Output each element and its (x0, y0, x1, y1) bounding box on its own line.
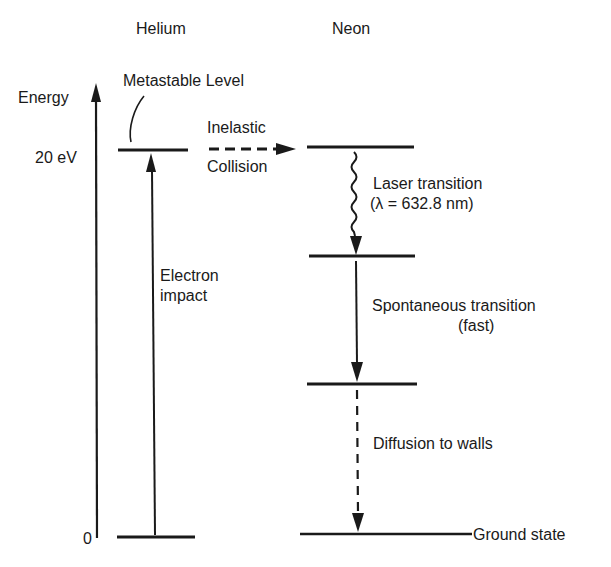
spontaneous-transition-label: Spontaneous transition (372, 297, 536, 314)
wavelength-label: (λ = 632.8 nm) (370, 195, 474, 212)
axis-arrowhead-icon (91, 83, 101, 102)
energy-level-diagram: Helium Neon Energy 20 eV 0 Metastable Le… (0, 0, 611, 567)
tick-20ev-label: 20 eV (35, 149, 77, 166)
collision-label: Collision (207, 158, 267, 175)
energy-axis: Energy 20 eV 0 (18, 83, 101, 547)
laser-transition: Laser transition (λ = 632.8 nm) (350, 152, 482, 255)
diffusion-transition: Diffusion to walls (352, 390, 493, 532)
laser-transition-label: Laser transition (373, 175, 482, 192)
inelastic-label: Inelastic (207, 119, 266, 136)
tick-zero-label: 0 (83, 530, 92, 547)
metastable-level-label: Metastable Level (123, 72, 244, 89)
spontaneous-transition: Spontaneous transition (fast) (351, 261, 536, 382)
helium-metastable-level: Metastable Level (118, 72, 244, 150)
arrowhead-down-icon (351, 362, 363, 382)
energy-axis-label: Energy (18, 89, 69, 106)
fast-label: (fast) (458, 317, 494, 334)
ground-state-label: Ground state (473, 526, 566, 543)
helium-column-title: Helium (136, 20, 186, 37)
neon-column-title: Neon (332, 20, 370, 37)
arrowhead-up-icon (146, 153, 156, 172)
leader-line (130, 96, 144, 142)
arrowhead-down-icon (352, 513, 364, 532)
electron-impact-label-1: Electron (160, 267, 219, 284)
inelastic-collision-transition: Inelastic Collision (207, 119, 296, 175)
electron-impact-transition: Electron impact (146, 153, 219, 535)
electron-impact-label-2: impact (160, 287, 208, 304)
arrowhead-down-icon (350, 236, 362, 255)
arrowhead-right-icon (276, 143, 296, 155)
diffusion-label: Diffusion to walls (373, 435, 493, 452)
